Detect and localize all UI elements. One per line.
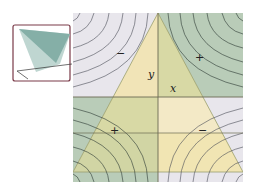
sign-top-right: + — [195, 52, 204, 63]
saddle-contour-figure — [0, 0, 253, 192]
inset-saddle-view — [13, 25, 72, 81]
y-axis-label: y — [148, 69, 154, 80]
x-axis-label: x — [170, 83, 176, 94]
sign-top-left: − — [116, 48, 125, 59]
sign-bottom-right: − — [198, 125, 207, 136]
sign-bottom-left: + — [110, 125, 119, 136]
